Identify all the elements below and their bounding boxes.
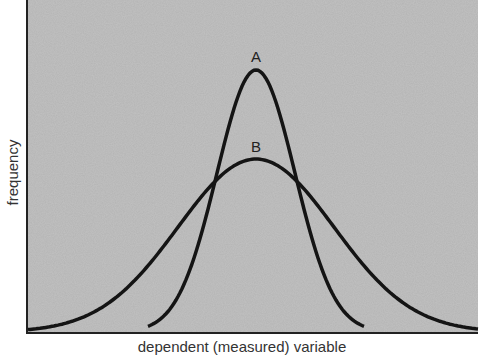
label-b: B	[251, 138, 261, 155]
label-a: A	[251, 48, 261, 65]
y-axis-label: frequency	[4, 123, 21, 223]
x-axis-label: dependent (measured) variable	[0, 338, 484, 355]
